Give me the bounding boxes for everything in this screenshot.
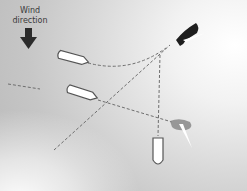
boat-upper-left [57, 50, 89, 66]
dark-sail-top-right [176, 23, 205, 46]
light-sail-bottom-right [170, 119, 192, 148]
sailing-diagram: Wind direction [0, 0, 247, 191]
course-line-upper [88, 48, 166, 66]
arrow-down-icon [20, 28, 37, 49]
course-line-vertical [158, 55, 160, 136]
course-line-middle [8, 84, 172, 122]
boat-middle-left [66, 84, 98, 101]
diagram-graphics [0, 0, 247, 191]
boat-bottom-center [153, 138, 163, 164]
